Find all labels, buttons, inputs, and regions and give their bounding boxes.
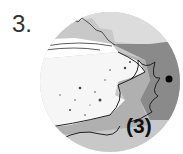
coastline-illustration	[0, 0, 183, 154]
marker-dot-icon	[166, 76, 173, 83]
figure-label: (3)	[126, 114, 152, 138]
